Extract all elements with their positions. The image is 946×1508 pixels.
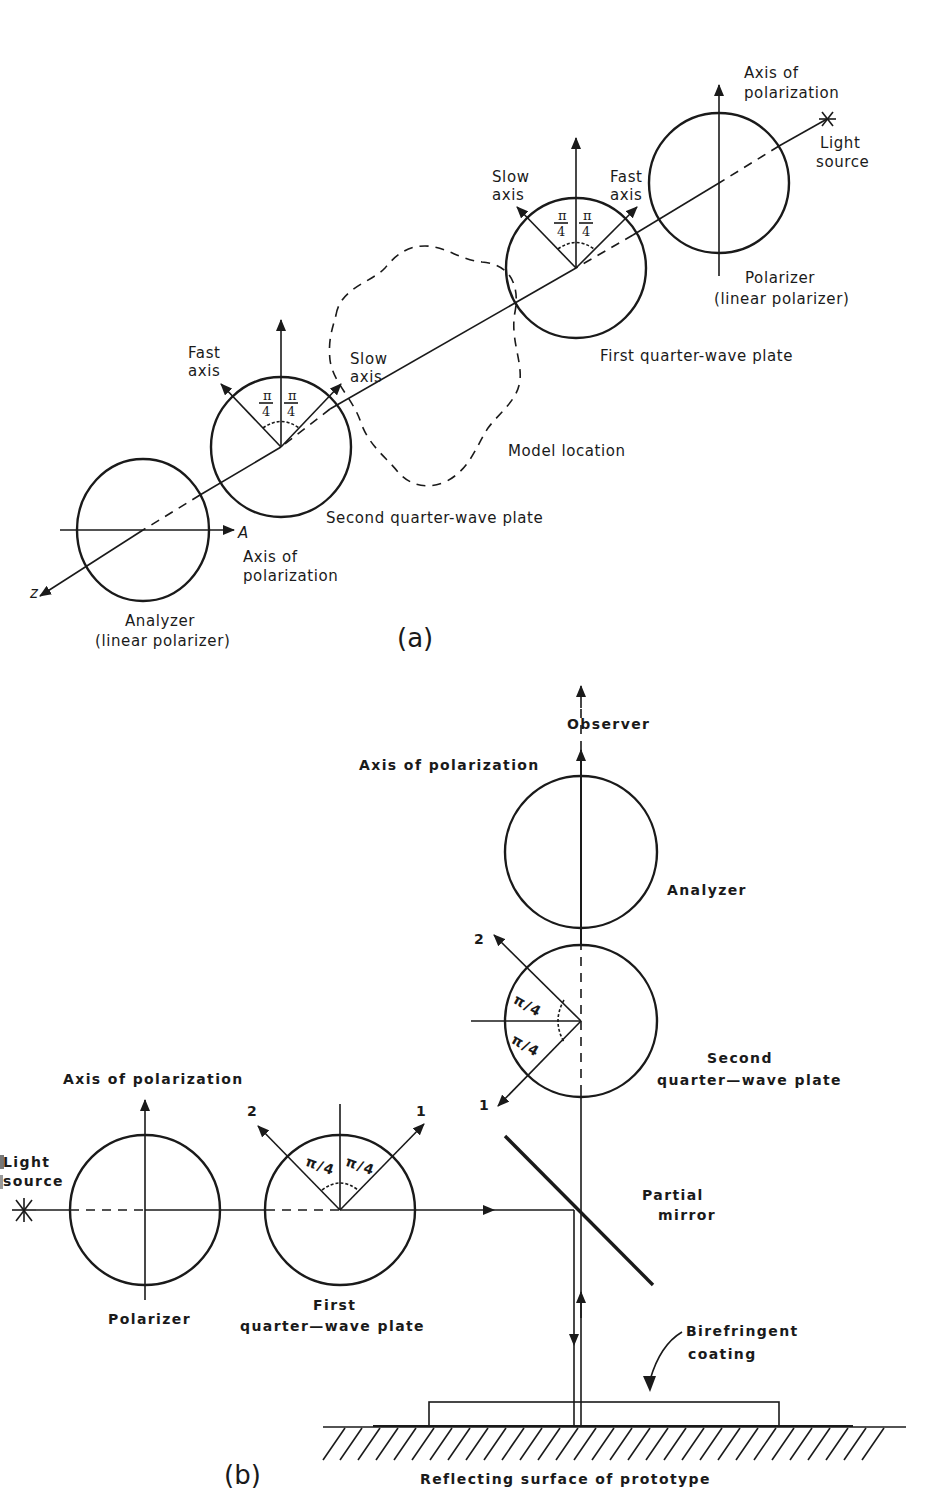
angle-label-upper: π/4 (511, 991, 545, 1020)
slow-axis-label-line1: Slow (492, 168, 530, 186)
panel-b: Light source Axis of polarization Polari… (0, 686, 906, 1490)
fast-axis-label-line1: Fast (188, 344, 221, 362)
axis-1-label: 1 (479, 1097, 490, 1113)
asterisk-icon (12, 1198, 36, 1222)
first-qwp-name-line2: quarter—wave plate (240, 1318, 425, 1334)
first-qwp-name: First quarter-wave plate (600, 347, 793, 365)
coating-label-line2: coating (688, 1346, 757, 1362)
light-source-label-line1: Light (3, 1154, 50, 1170)
angle-numerator-right: π (583, 208, 592, 223)
coating-label-line1: Birefringent (686, 1323, 799, 1339)
polarizer-name: Polarizer (108, 1311, 191, 1327)
analyzer-axis-label-line1: Axis of (243, 548, 298, 566)
analyzer-a: A Axis of polarization Analyzer (linear … (60, 459, 338, 650)
analyzer-name-line1: Analyzer (125, 612, 195, 630)
fast-axis-label-line1: Fast (610, 168, 643, 186)
z-axis-label: z (29, 584, 39, 602)
polarizer-axis-label: Axis of polarization (63, 1071, 244, 1087)
light-source-label-line2: source (3, 1173, 64, 1189)
analyzer-axis-label: Axis of polarization (359, 757, 540, 773)
observer-label: Observer (567, 716, 650, 732)
second-quarter-wave-plate-b: 2 1 π/4 π/4 Second quarter—wave plate (471, 931, 842, 1113)
photoelastic-polariscope-figure: z Light source Axis of polarization Pola… (0, 0, 946, 1508)
polarizer-axis-label-line2: polarization (744, 84, 839, 102)
polarizer-a: Axis of polarization Polarizer (linear p… (649, 64, 849, 308)
angle-label-right: π/4 (344, 1153, 378, 1178)
analyzer-name-line2: (linear polarizer) (95, 632, 230, 650)
angle-numerator-left: π (558, 208, 567, 223)
angle-denominator-left: 4 (262, 404, 270, 419)
first-quarter-wave-plate-b: 2 1 π/4 π/4 First quarter—wave plate (240, 1103, 427, 1334)
panel-b-label: (b) (224, 1460, 261, 1490)
second-qwp-name: Second quarter-wave plate (326, 509, 543, 527)
second-qwp-name-line2: quarter—wave plate (657, 1072, 842, 1088)
partial-mirror-label-line1: Partial (642, 1187, 704, 1203)
polarizer-axis-label-line1: Axis of (744, 64, 799, 82)
analyzer-b: Axis of polarization Analyzer Observer (359, 716, 747, 928)
second-qwp-name-line1: Second (707, 1050, 773, 1066)
light-source-b: Light source (0, 1154, 64, 1222)
axis-1-label: 1 (416, 1103, 427, 1119)
fast-axis-label-line2: axis (188, 362, 220, 380)
second-quarter-wave-plate-a: Fast axis Slow axis π 4 π 4 Second quart… (188, 320, 543, 527)
axis-2-label: 2 (474, 931, 485, 947)
panel-a-label: (a) (397, 623, 433, 653)
slow-axis-label-line2: axis (492, 186, 524, 204)
asterisk-icon (819, 112, 836, 126)
model-location-label: Model location (508, 442, 626, 460)
angle-denominator-left: 4 (557, 224, 565, 239)
angle-label-left: π/4 (304, 1153, 338, 1178)
angle-denominator-right: 4 (287, 404, 295, 419)
hatching (323, 1428, 884, 1460)
slow-axis-label-line1: Slow (350, 350, 388, 368)
angle-numerator-right: π (288, 388, 297, 403)
axis-2-label: 2 (247, 1103, 258, 1119)
first-qwp-name-line1: First (313, 1297, 356, 1313)
light-source-label-line1: Light (820, 134, 860, 152)
light-source-label-line2: source (816, 153, 869, 171)
analyzer-name: Analyzer (667, 882, 747, 898)
angle-denominator-right: 4 (582, 224, 590, 239)
polarizer-name-line1: Polarizer (745, 269, 815, 287)
analyzer-axis-label-line2: polarization (243, 567, 338, 585)
surface-label: Reflecting surface of prototype (420, 1471, 711, 1487)
analyzer-axis-letter: A (237, 524, 249, 542)
slow-axis-label-line2: axis (350, 368, 382, 386)
first-quarter-wave-plate-a: Slow axis Fast axis π 4 π 4 First quarte… (492, 138, 793, 365)
fast-axis-label-line2: axis (610, 186, 642, 204)
angle-numerator-left: π (263, 388, 272, 403)
vertical-beams (574, 686, 581, 1426)
polarizer-b: Axis of polarization Polarizer (63, 1071, 244, 1327)
reflecting-surface: Birefringent coating Reflecting surface … (323, 1323, 906, 1487)
partial-mirror-label-line2: mirror (658, 1207, 716, 1223)
panel-a: z Light source Axis of polarization Pola… (29, 64, 869, 653)
polarizer-name-line2: (linear polarizer) (714, 290, 849, 308)
